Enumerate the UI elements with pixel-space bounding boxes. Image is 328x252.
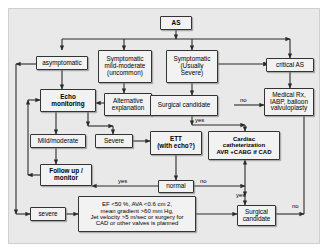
node-as[interactable]: AS (160, 16, 192, 30)
node-normal[interactable]: normal (158, 180, 194, 193)
node-critical-as[interactable]: critical AS (266, 58, 314, 72)
node-severe-2[interactable]: severe (30, 207, 66, 221)
node-symptomatic-mild-moderate[interactable]: Symptomatic mild-moderate (uncommon) (98, 50, 152, 83)
node-ett-with-echo[interactable]: ETT (with echo?) (150, 131, 202, 155)
edge-label-no-surgical-2: no (292, 203, 299, 209)
edge-label-yes-surgical-2: yes (236, 192, 245, 198)
node-surgical-candidate-1[interactable]: Surgical candidate (150, 95, 218, 116)
edge-label-yes-normal: yes (118, 178, 127, 184)
node-asymptomatic[interactable]: asymptomatic (36, 56, 88, 70)
node-alternative-explanation[interactable]: Alternative explanation (104, 93, 152, 116)
node-mild-moderate[interactable]: Mild/moderate (30, 134, 86, 148)
node-criteria[interactable]: EF <50 %, AVA <0.6 cm 2, mean gradient >… (78, 196, 196, 232)
node-medical-rx-iabp-valvuloplasty[interactable]: Medical Rx, IABP, balloon valvuloplasty (264, 88, 314, 116)
flowchart-canvas: AS asymptomatic Symptomatic mild-moderat… (0, 0, 328, 252)
node-echo-monitoring[interactable]: Echo monitoring (40, 89, 96, 112)
edge-label-yes-surgical-1: yes (195, 117, 204, 123)
node-symptomatic-usually-severe[interactable]: Symptomatic (Usually Severe) (166, 50, 218, 83)
edge-label-no-normal: no (200, 178, 207, 184)
node-severe-1[interactable]: Severe (95, 134, 133, 148)
node-cardiac-catheterization[interactable]: Cardiac catheterization AVR +CABG if CAD (208, 131, 280, 160)
edge-label-no-top: no (240, 97, 247, 103)
node-surgical-candidate-2[interactable]: Surgical candidate (237, 205, 276, 226)
node-follow-up-monitor[interactable]: Follow up / monitor (40, 164, 92, 186)
